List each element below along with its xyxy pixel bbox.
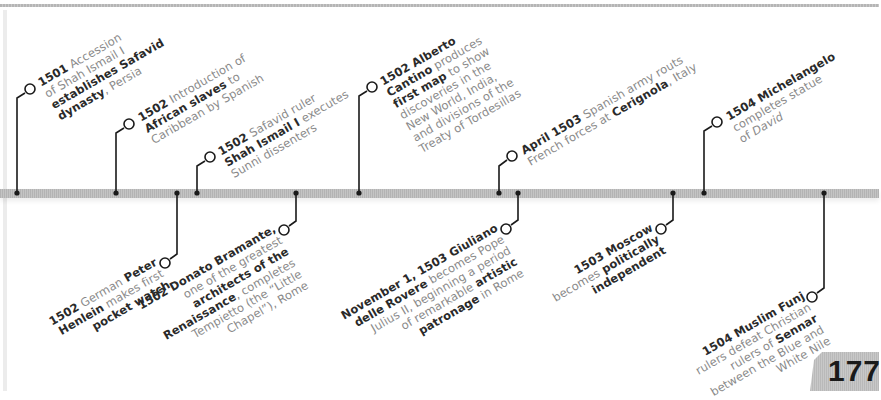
marker-circle-icon (507, 151, 517, 161)
marker-circle-icon (279, 225, 289, 235)
marker-circle-icon (160, 258, 170, 268)
marker-circle-icon (25, 84, 35, 94)
timeline-dot-icon (356, 190, 361, 195)
connector-cantino-map (356, 82, 377, 196)
connector-henlein-pocket-watch (160, 190, 180, 268)
timeline-dot-icon (496, 190, 501, 195)
timeline-dot-icon (293, 190, 298, 195)
timeline-dot-icon (821, 190, 826, 195)
timeline-dot-icon (113, 190, 118, 195)
connector-julius-ii-pope (501, 190, 521, 234)
timeline-dot-icon (670, 190, 675, 195)
connector-michelangelo-david (701, 117, 722, 196)
timeline-dot-icon (174, 190, 179, 195)
connector-battle-cerignola (496, 151, 517, 196)
connector-muslim-funj-sennar (807, 190, 827, 302)
connector-shah-ismail-executes (194, 152, 215, 196)
marker-circle-icon (656, 224, 666, 234)
marker-circle-icon (205, 152, 215, 162)
marker-circle-icon (124, 119, 134, 129)
timeline-dot-icon (194, 190, 199, 195)
connector-accession-shah-ismail (14, 84, 35, 196)
connector-moscow-independent (656, 190, 676, 234)
timeline-dot-icon (701, 190, 706, 195)
marker-circle-icon (501, 224, 511, 234)
marker-circle-icon (367, 82, 377, 92)
page-number: 177 (828, 354, 881, 388)
marker-circle-icon (807, 292, 817, 302)
connector-bramante-tempietto (279, 190, 299, 235)
timeline-dot-icon (14, 190, 19, 195)
timeline-dot-icon (515, 190, 520, 195)
connector-african-slaves-caribbean (113, 119, 134, 196)
marker-circle-icon (712, 117, 722, 127)
